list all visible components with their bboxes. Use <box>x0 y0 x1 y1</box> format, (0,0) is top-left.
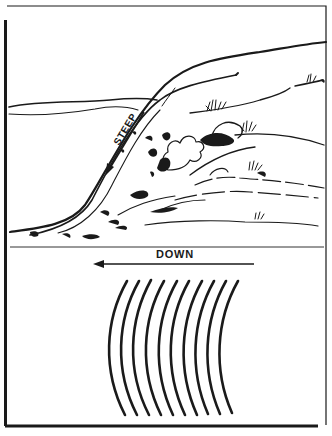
contour-line <box>184 281 202 415</box>
contour-line <box>195 281 214 414</box>
contour-line <box>146 281 164 415</box>
grass-tufts <box>206 74 316 219</box>
contour-lines <box>109 280 238 415</box>
contour-line <box>159 281 177 415</box>
down-label: DOWN <box>156 248 194 260</box>
contour-line <box>109 281 127 415</box>
down-arrow <box>93 260 254 268</box>
contour-line <box>207 281 226 414</box>
steep-slope-diagram: STEEP DOWN <box>0 0 332 436</box>
contour-line <box>171 281 189 415</box>
arrow-left-icon <box>93 260 104 268</box>
contour-line <box>133 280 151 415</box>
contour-line <box>219 281 238 413</box>
figure-frame <box>5 6 326 426</box>
contour-line <box>121 281 139 415</box>
